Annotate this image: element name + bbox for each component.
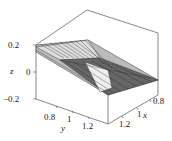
x-tick-1.2: 1.2 — [119, 119, 130, 129]
z-axis-label: z — [9, 66, 14, 76]
surface-plot: 0.2 0 −0.2 z 0.8 1 1.2 y 0.8 1 1.2 x — [0, 0, 172, 141]
z-tick-0: 0 — [26, 67, 31, 77]
z-tick-0.2: 0.2 — [8, 40, 19, 50]
y-axis-label: y — [60, 123, 65, 133]
x-tick-0.8: 0.8 — [153, 96, 165, 106]
y-tick-1.2: 1.2 — [82, 121, 93, 131]
y-tick-1: 1 — [67, 114, 72, 124]
x-axis-label: x — [142, 110, 147, 120]
z-axis-ticks — [33, 45, 36, 99]
y-tick-0.8: 0.8 — [44, 112, 56, 122]
x-tick-1: 1 — [137, 109, 142, 119]
surface-mesh — [36, 40, 158, 95]
z-tick-neg0.2: −0.2 — [3, 94, 19, 104]
